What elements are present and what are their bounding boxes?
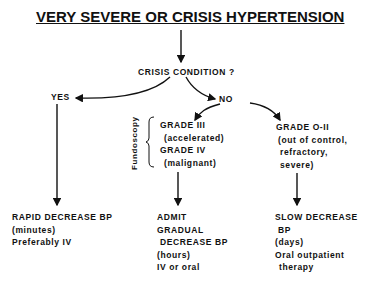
fundoscopy-label: Fundoscopy [130, 116, 139, 170]
no-label: NO [219, 93, 233, 106]
outcome-slow: SLOW DECREASE BP (days) Oral outpatient … [275, 211, 358, 274]
question-node: CRISIS CONDITION ? [138, 66, 235, 79]
grade-low-node: GRADE O-II (out of control, refractory, … [276, 121, 348, 171]
grade-high-node: GRADE III (accelerated) GRADE IV (malign… [160, 119, 224, 169]
outcome-gradual: ADMIT GRADUAL DECREASE BP (hours) IV or … [157, 211, 228, 274]
outcome-rapid: RAPID DECREASE BP (minutes) Preferably I… [12, 211, 112, 249]
yes-label: YES [51, 91, 70, 104]
